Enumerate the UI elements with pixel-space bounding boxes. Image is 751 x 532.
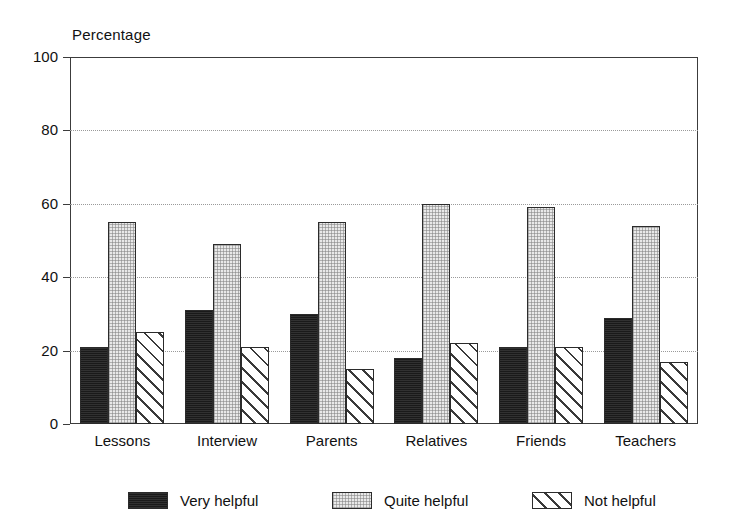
bar bbox=[318, 222, 346, 424]
y-axis-title: Percentage bbox=[72, 26, 151, 43]
bar bbox=[604, 318, 632, 424]
bar bbox=[555, 347, 583, 424]
y-axis-tick bbox=[63, 277, 70, 278]
bar bbox=[136, 332, 164, 424]
bar-chart: Percentage 020406080100 LessonsInterview… bbox=[0, 0, 751, 532]
x-axis-tick-label: Teachers bbox=[586, 432, 706, 450]
chart-legend: Very helpfulQuite helpfulNot helpful bbox=[0, 488, 751, 514]
bar bbox=[527, 207, 555, 424]
x-axis-tick-label: Relatives bbox=[376, 432, 496, 450]
y-axis-tick-label-wrap: 0 bbox=[12, 416, 58, 431]
y-axis-tick-label-wrap: 20 bbox=[12, 343, 58, 358]
legend-label: Not helpful bbox=[584, 492, 656, 509]
y-axis-tick-label-wrap: 80 bbox=[12, 122, 58, 137]
y-axis-tick bbox=[63, 130, 70, 131]
bar bbox=[394, 358, 422, 424]
gridline bbox=[70, 130, 698, 131]
y-axis-tick bbox=[63, 57, 70, 58]
y-axis-tick-label: 40 bbox=[18, 269, 58, 284]
gridline bbox=[70, 277, 698, 278]
y-axis-tick-label: 80 bbox=[18, 122, 58, 137]
legend-item: Not helpful bbox=[532, 488, 656, 512]
legend-label: Very helpful bbox=[180, 492, 258, 509]
legend-swatch-quite bbox=[332, 492, 372, 509]
y-axis-tick-label-wrap: 40 bbox=[12, 269, 58, 284]
x-axis-tick-label: Lessons bbox=[62, 432, 182, 450]
legend-label: Quite helpful bbox=[384, 492, 468, 509]
plot-area bbox=[70, 57, 698, 424]
bar bbox=[346, 369, 374, 424]
bar bbox=[450, 343, 478, 424]
y-axis-tick bbox=[63, 424, 70, 425]
y-axis-tick-label: 20 bbox=[18, 343, 58, 358]
x-axis-tick-label: Interview bbox=[167, 432, 287, 450]
gridline bbox=[70, 204, 698, 205]
y-axis-tick bbox=[63, 351, 70, 352]
bar bbox=[499, 347, 527, 424]
y-axis-tick-label: 0 bbox=[18, 416, 58, 431]
legend-item: Quite helpful bbox=[332, 488, 468, 512]
y-axis-tick-label-wrap: 100 bbox=[12, 49, 58, 64]
legend-item: Very helpful bbox=[128, 488, 258, 512]
bar bbox=[185, 310, 213, 424]
bar bbox=[108, 222, 136, 424]
bar bbox=[660, 362, 688, 424]
y-axis-tick bbox=[63, 204, 70, 205]
x-axis-tick-label: Friends bbox=[481, 432, 601, 450]
bar bbox=[213, 244, 241, 424]
legend-swatch-very bbox=[128, 492, 168, 509]
bar bbox=[632, 226, 660, 424]
bar bbox=[241, 347, 269, 424]
x-axis-tick-label: Parents bbox=[272, 432, 392, 450]
y-axis-tick-label-wrap: 60 bbox=[12, 196, 58, 211]
bar bbox=[422, 204, 450, 424]
y-axis-tick-label: 100 bbox=[18, 49, 58, 64]
bar bbox=[80, 347, 108, 424]
y-axis-tick-label: 60 bbox=[18, 196, 58, 211]
legend-swatch-not bbox=[532, 492, 572, 509]
bar bbox=[290, 314, 318, 424]
